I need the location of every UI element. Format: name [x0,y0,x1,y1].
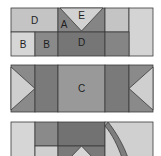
label-b-second: B [43,39,50,50]
label-a: A [61,19,68,30]
strip-2-left-dark [35,65,58,112]
label-c: C [78,83,85,94]
piece-bottom-right [105,32,129,56]
label-d-bottom: D [78,37,85,48]
strip-3-dark [58,122,105,146]
strip-2-right-dark [105,65,129,112]
piece-top-right-2 [129,8,153,56]
strip-3-medium [35,122,58,146]
label-e: E [78,10,85,21]
strip-3 [11,122,153,156]
strip-3-left-light [11,122,35,156]
label-d-top: D [31,15,38,26]
quilt-diagram: D A E B B D C [0,0,161,156]
piece-top-right-1 [105,8,129,32]
strip-3-medium-lower [35,146,58,156]
label-b-left: B [20,39,27,50]
